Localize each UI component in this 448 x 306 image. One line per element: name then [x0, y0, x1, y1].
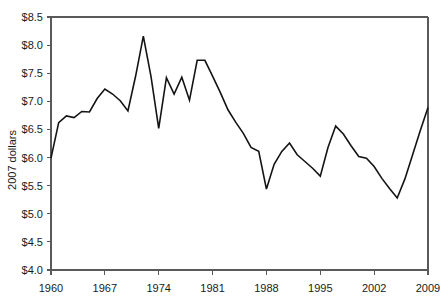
x-tick-label: 2002 [362, 282, 386, 294]
y-tick-label: $5.5 [22, 180, 43, 192]
x-tick-label: 1960 [39, 282, 63, 294]
y-tick-label: $5.0 [22, 208, 43, 220]
x-tick-label: 2009 [416, 282, 440, 294]
y-tick-label: $6.0 [22, 152, 43, 164]
y-axis-tick-labels: $8.5$8.0$7.5$7.0$6.5$6.0$5.5$5.0$4.5$4.0 [22, 11, 43, 276]
y-tick-label: $6.5 [22, 123, 43, 135]
x-axis-tick-labels: 19601967197419811988199520022009 [39, 282, 440, 294]
x-tick-label: 1974 [146, 282, 170, 294]
y-tick-label: $4.5 [22, 236, 43, 248]
x-tick-label: 1981 [200, 282, 224, 294]
series-group [51, 36, 428, 198]
x-tick-label: 1995 [308, 282, 332, 294]
y-tick-label: $8.5 [22, 11, 43, 23]
y-tick-label: $7.5 [22, 67, 43, 79]
y-tick-label: $4.0 [22, 264, 43, 276]
line-chart: $8.5$8.0$7.5$7.0$6.5$6.0$5.5$5.0$4.5$4.0… [0, 0, 448, 306]
y-tick-label: $7.0 [22, 95, 43, 107]
data-line-2007-dollars [51, 36, 428, 198]
y-axis-title: 2007 dollars [6, 130, 18, 190]
x-tick-label: 1967 [93, 282, 117, 294]
plot-frame [51, 17, 428, 270]
chart-container: $8.5$8.0$7.5$7.0$6.5$6.0$5.5$5.0$4.5$4.0… [0, 0, 448, 306]
x-axis-ticks [51, 270, 428, 275]
y-tick-label: $8.0 [22, 39, 43, 51]
x-tick-label: 1988 [254, 282, 278, 294]
